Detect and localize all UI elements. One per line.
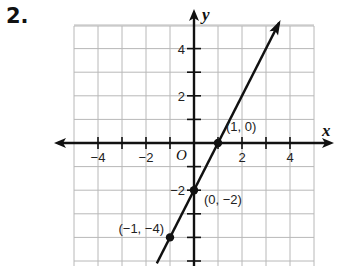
origin-label: O [176, 147, 187, 163]
point-label: (−1, −4) [118, 221, 164, 236]
coordinate-plane: −4−22442−2 (1, 0)(0, −2)(−1, −4) x y O [0, 0, 340, 266]
plotted-points: (1, 0)(0, −2)(−1, −4) [118, 119, 256, 242]
axes [54, 9, 334, 266]
x-tick-label: −4 [91, 150, 106, 165]
data-point [166, 233, 174, 241]
y-tick-label: 4 [178, 42, 185, 57]
point-label: (1, 0) [226, 119, 256, 134]
y-tick-label: 2 [178, 89, 185, 104]
data-point [214, 139, 222, 147]
x-axis-label: x [321, 121, 331, 140]
data-point [190, 186, 198, 194]
x-tick-label: −2 [139, 150, 154, 165]
y-tick-label: −2 [170, 183, 185, 198]
y-axis-label: y [200, 5, 210, 24]
x-tick-label: 2 [238, 150, 245, 165]
point-label: (0, −2) [204, 192, 242, 207]
x-tick-label: 4 [286, 150, 293, 165]
